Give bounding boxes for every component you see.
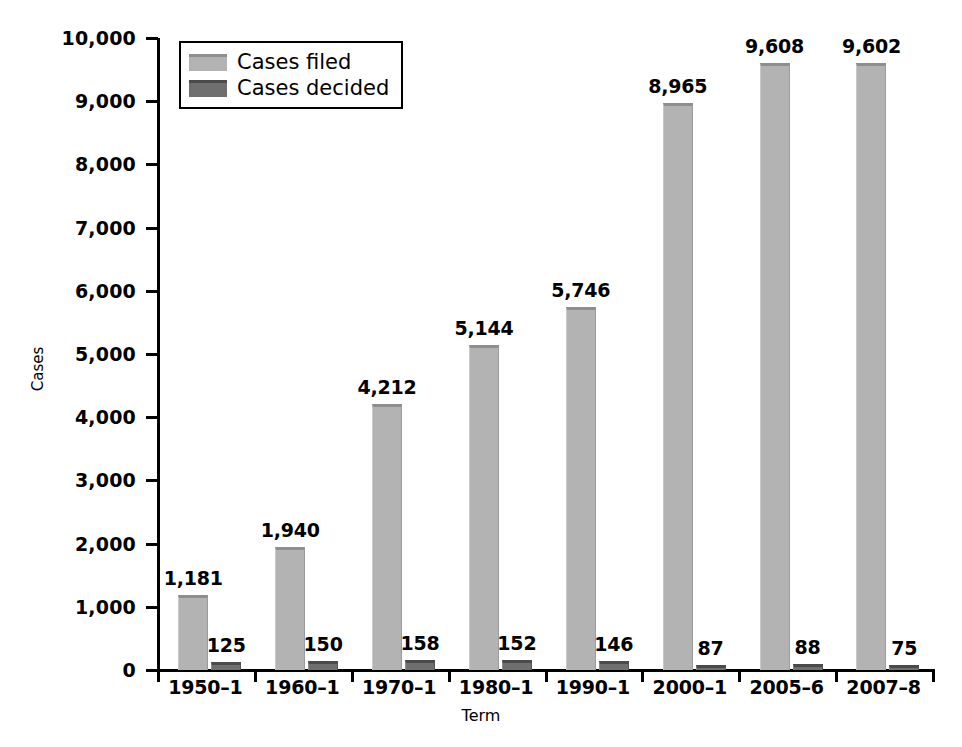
bar-group: 5,1441521980–1 [448,38,545,670]
x-axis-tick [545,669,548,682]
y-axis-tick-label: 1,000 [18,596,136,618]
bar-chart: 01,0002,0003,0004,0005,0006,0007,0008,00… [0,0,962,747]
bar-group: 9,602752007–8 [835,38,932,670]
bar-decided[interactable] [502,660,532,670]
bar-value-label: 8,965 [648,75,707,97]
bar-filed[interactable] [663,103,693,670]
y-axis-tick-label: 3,000 [18,469,136,491]
bar-decided[interactable] [793,664,823,670]
bar-decided[interactable] [405,660,435,670]
bar-filed[interactable] [178,595,208,670]
x-axis-tick [254,669,257,682]
bar-value-label: 125 [207,634,246,656]
bar-value-label: 75 [891,637,917,659]
bar-filed[interactable] [275,547,305,670]
plot-area: 1,1811251950–11,9401501960–14,2121581970… [157,38,932,670]
x-axis-category-label: 2007–8 [846,676,920,698]
bar-decided[interactable] [211,662,241,670]
y-axis-tick-label: 6,000 [18,280,136,302]
bar-group: 8,965872000–1 [641,38,738,670]
legend: Cases filed Cases decided [179,41,403,109]
bar-filed[interactable] [469,345,499,670]
bar-value-label: 150 [304,633,343,655]
bar-filed[interactable] [760,63,790,670]
bar-value-label: 9,602 [842,35,901,57]
x-axis-tick [835,669,838,682]
x-axis-category-label: 2005–6 [749,676,823,698]
legend-swatch-cases-decided [189,80,227,97]
y-axis-title: Cases [29,309,47,429]
bar-decided[interactable] [889,665,919,670]
x-axis-tick [351,669,354,682]
x-axis-category-label: 1950–1 [168,676,242,698]
bar-filed[interactable] [566,307,596,670]
x-axis-tick [738,669,741,682]
y-axis-tick-label: 9,000 [18,90,136,112]
x-axis-category-label: 1960–1 [265,676,339,698]
x-axis-tick [448,669,451,682]
bar-decided[interactable] [599,661,629,670]
bar-filed[interactable] [372,404,402,670]
y-axis-tick-label: 0 [18,659,136,681]
y-axis-tick-label: 10,000 [18,27,136,49]
bar-value-label: 5,144 [454,317,513,339]
x-axis-category-label: 1990–1 [556,676,630,698]
bar-value-label: 4,212 [358,376,417,398]
legend-item-cases-decided: Cases decided [189,75,389,101]
bar-decided[interactable] [308,661,338,670]
bar-value-label: 5,746 [551,279,610,301]
bar-value-label: 9,608 [745,35,804,57]
bar-value-label: 146 [594,633,633,655]
bar-value-label: 1,940 [261,519,320,541]
legend-swatch-cases-filed [189,54,227,71]
bar-filed[interactable] [856,63,886,670]
x-axis-category-label: 1980–1 [459,676,533,698]
bar-group: 1,9401501960–1 [254,38,351,670]
bar-value-label: 87 [698,637,724,659]
x-axis-tick [932,669,935,682]
bar-group: 1,1811251950–1 [157,38,254,670]
bar-group: 9,608882005–6 [738,38,835,670]
bar-value-label: 152 [497,632,536,654]
y-axis-tick-label: 8,000 [18,153,136,175]
bar-value-label: 158 [400,632,439,654]
bar-value-label: 88 [794,636,820,658]
bar-decided[interactable] [696,665,726,670]
bar-value-label: 1,181 [164,567,223,589]
y-axis-tick-label: 7,000 [18,217,136,239]
legend-label-cases-decided: Cases decided [237,78,389,99]
x-axis-category-label: 1970–1 [362,676,436,698]
x-axis-tick [641,669,644,682]
bar-group: 4,2121581970–1 [351,38,448,670]
y-axis-tick-label: 2,000 [18,533,136,555]
legend-label-cases-filed: Cases filed [237,52,351,73]
legend-item-cases-filed: Cases filed [189,49,389,75]
x-axis-title: Term [0,706,962,725]
x-axis-category-label: 2000–1 [653,676,727,698]
bar-group: 5,7461461990–1 [545,38,642,670]
x-axis-tick [157,669,160,682]
